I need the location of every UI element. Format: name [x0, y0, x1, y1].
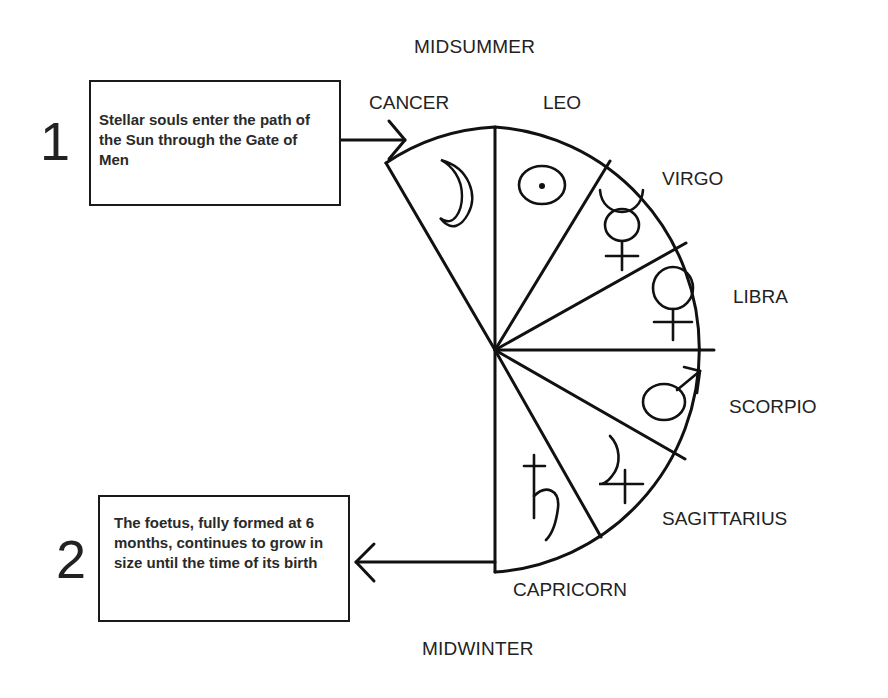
mercury-icon: [600, 190, 643, 270]
divider-leo-virgo: [495, 161, 610, 350]
midwinter-label: MIDWINTER: [422, 638, 534, 660]
cancer-left-edge: [386, 163, 495, 350]
divider-sagittarius-capricorn: [495, 350, 601, 537]
sign-label-sagittarius: SAGITTARIUS: [662, 508, 787, 530]
midsummer-label: MIDSUMMER: [414, 36, 535, 58]
sign-label-scorpio: SCORPIO: [729, 396, 817, 418]
saturn-icon: [524, 455, 558, 540]
step-number-2: 2: [56, 532, 86, 586]
sign-label-cancer: CANCER: [369, 92, 449, 114]
sign-label-virgo: VIRGO: [662, 168, 723, 190]
sign-label-capricorn: CAPRICORN: [513, 579, 627, 601]
moon-icon: [440, 160, 472, 226]
note-box-1: Stellar souls enter the path of the Sun …: [89, 80, 341, 206]
divider-scorpio-sagittarius: [495, 350, 685, 459]
sign-label-leo: LEO: [543, 92, 581, 114]
jupiter-icon: [599, 436, 643, 503]
divider-virgo-libra: [495, 243, 686, 350]
note-box-2: The foetus, fully formed at 6 months, co…: [98, 495, 350, 622]
step-number-1: 1: [40, 114, 70, 168]
sign-label-libra: LIBRA: [733, 286, 788, 308]
sun-icon: [519, 166, 565, 204]
